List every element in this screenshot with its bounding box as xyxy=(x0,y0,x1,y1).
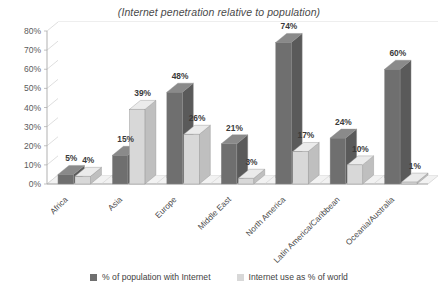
legend-label-series1: % of population with Internet xyxy=(102,272,210,282)
bar-value-label: 5% xyxy=(65,153,78,163)
bar-value-label: 26% xyxy=(189,113,206,123)
light-gray-swatch-icon xyxy=(237,274,244,281)
bar-value-label: 39% xyxy=(134,88,151,98)
y-axis-tick-label: 80% xyxy=(24,26,41,36)
bar-value-label: 1% xyxy=(409,161,422,171)
y-axis-tick-label: 20% xyxy=(24,141,41,151)
y-axis-tick-label: 50% xyxy=(24,83,41,93)
x-axis-category-label: Oceania/Australia xyxy=(344,195,396,247)
legend-label-series2: Internet use as % of world xyxy=(249,272,348,282)
x-axis-category-label: Europe xyxy=(153,195,178,220)
y-axis-tick-label: 30% xyxy=(24,122,41,132)
chart-container: (Internet penetration relative to popula… xyxy=(0,0,438,297)
y-axis-tick-label: 70% xyxy=(24,45,41,55)
y-axis-tick-label: 40% xyxy=(24,103,41,113)
bar-value-label: 15% xyxy=(117,134,134,144)
y-axis-tick-label: 60% xyxy=(24,64,41,74)
legend-item-series2: Internet use as % of world xyxy=(237,272,348,282)
bar-series2 xyxy=(293,142,320,184)
bar-value-label: 60% xyxy=(389,48,406,58)
bar-value-label: 3% xyxy=(245,157,258,167)
x-axis-tick-labels: AfricaAsiaEuropeMiddle EastNorth America… xyxy=(48,195,396,265)
bar-value-label: 74% xyxy=(281,21,298,31)
bar-value-label: 48% xyxy=(172,71,189,81)
x-axis-category-label: Asia xyxy=(106,195,124,213)
bar-value-label: 17% xyxy=(298,130,315,140)
chart-plot-area: 0%10%20%30%40%50%60%70%80% 5%4%15%39%48%… xyxy=(0,0,438,297)
bar-series1 xyxy=(385,60,412,184)
bar-value-label: 4% xyxy=(82,155,95,165)
x-axis-category-label: Africa xyxy=(48,195,69,216)
bar-value-label: 10% xyxy=(352,144,369,154)
x-axis-category-label: Middle East xyxy=(196,195,233,232)
chart-legend: % of population with Internet Internet u… xyxy=(0,272,438,282)
x-axis-category-label: North America xyxy=(244,195,287,238)
y-axis-tick-label: 0% xyxy=(29,179,42,189)
bar-value-label: 24% xyxy=(335,117,352,127)
y-axis-tick-labels: 0%10%20%30%40%50%60%70%80% xyxy=(24,26,41,189)
bar-series2 xyxy=(184,125,211,184)
dark-gray-swatch-icon xyxy=(90,274,97,281)
y-axis-tick-label: 10% xyxy=(24,160,41,170)
bar-value-label: 21% xyxy=(226,123,243,133)
legend-item-series1: % of population with Internet xyxy=(90,272,210,282)
